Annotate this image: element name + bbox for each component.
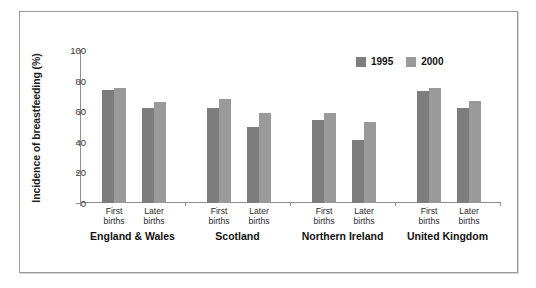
- bar-1995: [247, 127, 259, 204]
- y-axis-title: Incidence of breastfeeding (%): [28, 42, 44, 214]
- legend-label: 1995: [371, 56, 393, 67]
- legend-swatch-1995: [356, 57, 366, 67]
- bar-2000: [429, 88, 441, 203]
- bar-pair: [207, 50, 231, 203]
- x-axis-pair-label: Laterbirths: [339, 206, 389, 226]
- x-axis-tick-mark: [395, 202, 396, 206]
- bar-pair: [352, 50, 376, 203]
- bar-group: [80, 50, 185, 203]
- x-axis-tick-mark: [290, 202, 291, 206]
- bar-2000: [469, 101, 481, 204]
- x-axis-pair-label-line2: births: [129, 216, 179, 226]
- x-axis-pair-label: Laterbirths: [129, 206, 179, 226]
- x-axis-pair-label-line1: Later: [234, 206, 284, 216]
- bar-group: [185, 50, 290, 203]
- x-axis-tick-mark: [185, 202, 186, 206]
- bar-2000: [324, 113, 336, 203]
- x-axis-pair-label: Laterbirths: [234, 206, 284, 226]
- x-axis-group-label: England & Wales: [80, 230, 185, 242]
- bar-group: [290, 50, 395, 203]
- bar-1995: [417, 91, 429, 203]
- cropped-header-text: [0, 0, 536, 9]
- chart-legend: 19952000: [356, 56, 444, 67]
- x-axis-group-label: Northern Ireland: [290, 230, 395, 242]
- bar-1995: [142, 108, 154, 203]
- bar-1995: [312, 120, 324, 203]
- bar-2000: [154, 102, 166, 203]
- x-axis-pair-label-line1: Later: [129, 206, 179, 216]
- x-axis-tick-mark: [500, 202, 501, 206]
- x-axis-pair-label-line1: Later: [444, 206, 494, 216]
- bar-pair: [457, 50, 481, 203]
- x-axis-pair-label-line2: births: [339, 216, 389, 226]
- bar-2000: [219, 99, 231, 203]
- bar-pair: [247, 50, 271, 203]
- legend-label: 2000: [421, 56, 443, 67]
- bar-pair: [142, 50, 166, 203]
- x-axis-group-label: Scotland: [185, 230, 290, 242]
- bar-1995: [352, 140, 364, 203]
- x-axis-pair-label: Laterbirths: [444, 206, 494, 226]
- legend-item: 1995: [356, 56, 393, 67]
- bar-pair: [417, 50, 441, 203]
- bar-pair: [312, 50, 336, 203]
- bar-2000: [259, 113, 271, 203]
- x-axis-pair-label-line1: Later: [339, 206, 389, 216]
- bar-group: [395, 50, 500, 203]
- bar-1995: [457, 108, 469, 203]
- bar-1995: [207, 108, 219, 203]
- legend-swatch-2000: [406, 57, 416, 67]
- y-axis-title-text: Incidence of breastfeeding (%): [30, 53, 42, 202]
- legend-item: 2000: [406, 56, 443, 67]
- x-axis-group-label: United Kingdom: [395, 230, 500, 242]
- bar-2000: [364, 122, 376, 203]
- bar-groups: [80, 50, 500, 203]
- bar-2000: [114, 88, 126, 203]
- bar-pair: [102, 50, 126, 203]
- x-axis-tick-mark: [80, 202, 81, 206]
- chart-frame: Incidence of breastfeeding (%) 020406080…: [19, 11, 518, 273]
- x-axis-pair-label-line2: births: [444, 216, 494, 226]
- x-axis-pair-label-line2: births: [234, 216, 284, 226]
- bar-1995: [102, 90, 114, 203]
- chart-plot-area: Incidence of breastfeeding (%) 020406080…: [20, 12, 517, 272]
